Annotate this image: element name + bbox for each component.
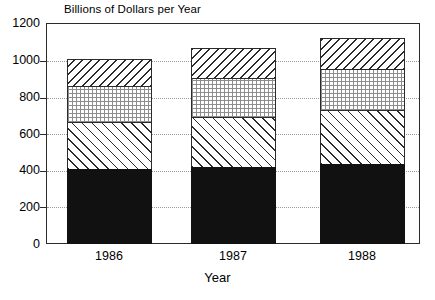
x-tick-label-1988: 1988 [302,249,422,263]
x-tick-label-1987: 1987 [173,249,293,263]
bar-1988-segment-2-diagonal[interactable] [320,110,405,165]
bar-1988-segment-3-dotted[interactable] [320,69,405,111]
chart-root: Billions of Dollars per Year 1200 1000 8… [0,0,435,300]
bar-1988-segment-4-hatched[interactable] [320,38,405,70]
bar-1987-segment-2-diagonal[interactable] [191,117,276,168]
bar-1986[interactable] [67,59,152,243]
bar-1988-segment-1-solid[interactable] [320,164,405,244]
bar-1986-segment-2-diagonal[interactable] [67,122,152,170]
y-tick-label-1000: 1000 [0,54,40,66]
bar-1988[interactable] [320,38,405,243]
bar-1986-segment-4-hatched[interactable] [67,59,152,87]
bar-1986-segment-3-dotted[interactable] [67,86,152,123]
x-tick-label-1986: 1986 [49,249,169,263]
bar-1987-segment-1-solid[interactable] [191,167,276,244]
y-tick-label-800: 800 [0,91,40,103]
y-tick-label-600: 600 [0,128,40,140]
y-tick-label-400: 400 [0,164,40,176]
bar-1987-segment-4-hatched[interactable] [191,48,276,79]
bar-1987[interactable] [191,48,276,243]
bar-1987-segment-3-dotted[interactable] [191,78,276,118]
bar-1986-segment-1-solid[interactable] [67,169,152,244]
y-tick-label-0: 0 [0,238,40,250]
chart-title: Billions of Dollars per Year [64,3,201,15]
y-tick-label-200: 200 [0,201,40,213]
x-axis-title: Year [0,270,435,285]
y-tick-label-1200: 1200 [0,17,40,29]
plot-area [46,23,420,244]
